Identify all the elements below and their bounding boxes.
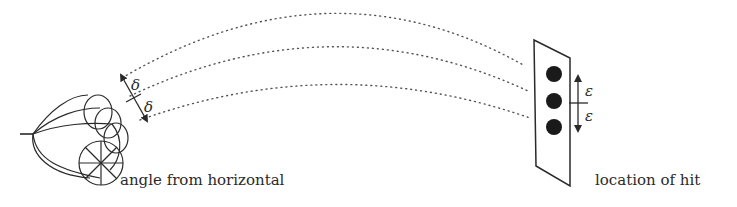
delta-lower-symbol: δ (144, 98, 153, 116)
hit-point-middle (546, 93, 562, 109)
hit-point-bottom (546, 119, 562, 135)
trajectory-middle (130, 47, 528, 96)
epsilon-lower-symbol: ε (585, 107, 593, 125)
angle-label: angle from horizontal (120, 171, 284, 189)
location-label: location of hit (595, 171, 700, 189)
epsilon-upper-symbol: ε (585, 82, 593, 100)
trajectories (122, 13, 530, 120)
launcher-icon (20, 95, 128, 185)
hit-point-top (546, 66, 562, 82)
target-panel (534, 40, 570, 186)
delta-upper-symbol: δ (131, 76, 140, 94)
trajectory-bottom (140, 84, 530, 120)
trajectory-top (122, 13, 525, 78)
hit-points (546, 66, 562, 135)
